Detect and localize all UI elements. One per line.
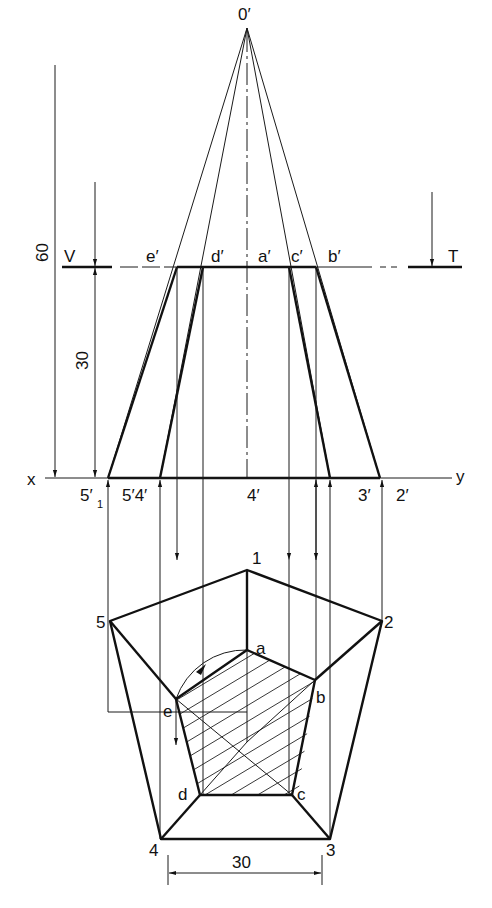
label-3: 3 — [326, 841, 335, 860]
label-5-prime-1: 5′ — [80, 486, 93, 505]
label-e: e — [163, 702, 172, 721]
dim-60-label: 60 — [33, 243, 52, 262]
front-view — [45, 28, 462, 478]
label-c-prime: c′ — [291, 247, 303, 266]
label-d: d — [178, 785, 187, 804]
cut-plane-label-v: V — [64, 247, 76, 266]
axis-y-label: y — [456, 467, 465, 486]
label-c: c — [297, 785, 306, 804]
label-b: b — [316, 688, 325, 707]
label-5: 5 — [96, 613, 105, 632]
label-5-prime-4-prime: 5′4′ — [122, 486, 147, 505]
label-5-prime-1-sub: 1 — [97, 498, 103, 510]
apex-label: 0′ — [238, 5, 251, 24]
label-d-prime: d′ — [211, 247, 224, 266]
technical-drawing: 0′ V T e′ d′ a′ c′ b′ x y 5′ 1 5′4′ 4′ 3… — [0, 0, 492, 908]
plan-view — [110, 570, 382, 885]
label-a-prime: a′ — [258, 247, 271, 266]
label-b-prime: b′ — [328, 247, 341, 266]
label-2-prime: 2′ — [396, 486, 409, 505]
cut-plane-label-t: T — [448, 247, 458, 266]
axis-x-label: x — [27, 470, 36, 489]
label-3-prime: 3′ — [358, 486, 371, 505]
label-a: a — [256, 639, 266, 658]
dim-30-height-label: 30 — [73, 351, 92, 370]
label-4-prime: 4′ — [247, 486, 260, 505]
dim-30-base-label: 30 — [232, 853, 251, 872]
label-e-prime: e′ — [146, 247, 159, 266]
label-2: 2 — [384, 613, 393, 632]
labels: 0′ V T e′ d′ a′ c′ b′ x y 5′ 1 5′4′ 4′ 3… — [27, 5, 465, 872]
label-1: 1 — [252, 549, 261, 568]
frustum-outline — [108, 267, 380, 478]
label-4: 4 — [149, 841, 158, 860]
